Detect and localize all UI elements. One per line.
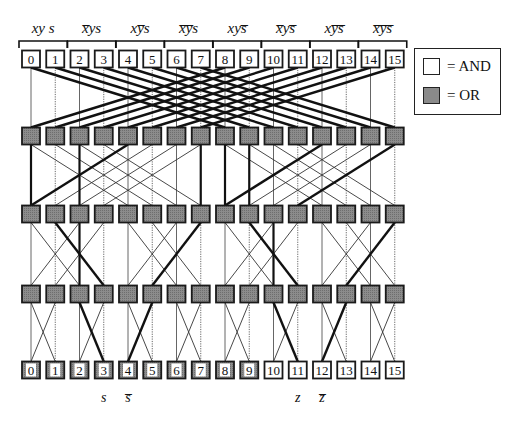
or-gate-node — [22, 206, 40, 223]
or-gate-node — [119, 286, 137, 303]
input-node-label: 5 — [149, 52, 156, 67]
output-node-label: 2 — [76, 363, 83, 378]
input-node-label: 0 — [28, 52, 35, 67]
or-gate-node — [119, 206, 137, 223]
or-gate-node — [95, 286, 113, 303]
group-label: xy̅s̅ — [324, 20, 346, 36]
or-gate-node — [289, 286, 307, 303]
input-node-label: 13 — [340, 52, 353, 67]
or-gate-node — [337, 128, 355, 145]
legend: = AND = OR — [414, 48, 501, 115]
output-node-label: 12 — [316, 363, 329, 378]
or-gate-node — [240, 206, 258, 223]
or-gate-swatch-icon — [423, 87, 440, 104]
or-gate-node — [22, 286, 40, 303]
legend-label-and: = AND — [447, 58, 491, 75]
or-gate-node — [265, 286, 283, 303]
legend-item-and: = AND — [423, 58, 491, 75]
or-gate-node — [289, 128, 307, 145]
output-node-label: 1 — [52, 363, 59, 378]
or-gate-node — [240, 286, 258, 303]
or-gate-node — [46, 206, 64, 223]
or-gate-node — [289, 206, 307, 223]
output-node-label: 11 — [291, 363, 304, 378]
or-gate-node — [71, 286, 89, 303]
output-signal-label: s — [101, 390, 107, 405]
input-node-label: 15 — [388, 52, 401, 67]
butterfly-cross-connections — [31, 145, 395, 362]
or-gate-node — [119, 128, 137, 145]
or-gate-node — [95, 206, 113, 223]
input-node-label: 3 — [101, 52, 108, 67]
group-labels: xy sx̅ysxy̅sx̅y̅sxys̅x̅ys̅xy̅s̅x̅y̅s̅ — [31, 20, 394, 36]
or-gate-node — [192, 206, 210, 223]
or-gate-node — [216, 128, 234, 145]
output-node-label: 8 — [222, 363, 229, 378]
input-node-label: 6 — [173, 52, 180, 67]
output-node-label: 6 — [173, 363, 180, 378]
output-signal-label: z — [294, 390, 301, 405]
or-gate-node — [168, 206, 186, 223]
or-gate-node — [192, 286, 210, 303]
or-gate-node — [46, 128, 64, 145]
group-label: xys̅ — [227, 20, 249, 36]
or-gate-node — [313, 206, 331, 223]
or-gate-node — [386, 286, 404, 303]
and-gate-swatch-icon — [423, 58, 440, 75]
or-gate-node — [362, 128, 380, 145]
input-node-label: 10 — [267, 52, 280, 67]
or-gate-node — [386, 206, 404, 223]
output-node-label: 5 — [149, 363, 156, 378]
or-gate-node — [143, 286, 161, 303]
or-gate-node — [386, 128, 404, 145]
group-label: x̅ys — [81, 20, 101, 36]
or-gate-node — [216, 286, 234, 303]
input-node-label: 8 — [222, 52, 229, 67]
group-brackets — [19, 41, 407, 48]
or-gate-node — [265, 128, 283, 145]
or-gate-node — [337, 286, 355, 303]
or-gate-node — [22, 128, 40, 145]
output-node-label: 3 — [101, 363, 108, 378]
input-node-label: 11 — [291, 52, 304, 67]
input-node-label: 12 — [316, 52, 329, 67]
input-node-label: 14 — [364, 52, 378, 67]
output-node-label: 15 — [388, 363, 401, 378]
output-node-label: 4 — [125, 363, 132, 378]
output-node-label: 7 — [198, 363, 205, 378]
output-labels: ss̅zz̅ — [101, 390, 327, 405]
or-gate-node — [240, 128, 258, 145]
or-gate-node — [143, 128, 161, 145]
or-gate-node — [265, 206, 283, 223]
output-node-label: 9 — [246, 363, 253, 378]
or-gate-node — [216, 206, 234, 223]
or-gate-node — [71, 128, 89, 145]
or-gate-node — [71, 206, 89, 223]
input-node-label: 9 — [246, 52, 253, 67]
or-gate-node — [168, 128, 186, 145]
or-gate-node — [337, 206, 355, 223]
or-gate-node — [313, 128, 331, 145]
or-gate-node — [168, 286, 186, 303]
legend-label-or: = OR — [447, 87, 480, 104]
group-label: xy̅s — [130, 20, 150, 36]
or-gate-node — [95, 128, 113, 145]
or-gate-node — [192, 128, 210, 145]
or-gate-node — [313, 286, 331, 303]
output-signal-label: s̅ — [125, 390, 133, 405]
or-gate-node — [46, 286, 64, 303]
group-label: x̅ys̅ — [275, 20, 297, 36]
legend-item-or: = OR — [423, 87, 480, 104]
group-label: xy s — [31, 20, 55, 36]
group-label: x̅y̅s — [178, 20, 198, 36]
or-gate-node — [362, 286, 380, 303]
or-gate-node — [143, 206, 161, 223]
group-label: x̅y̅s̅ — [372, 20, 394, 36]
output-node-label: 10 — [267, 363, 280, 378]
input-node-label: 2 — [76, 52, 83, 67]
output-signal-label: z̅ — [318, 390, 326, 405]
output-node-label: 14 — [364, 363, 378, 378]
or-gate-node — [362, 206, 380, 223]
input-node-label: 7 — [198, 52, 205, 67]
input-node-label: 4 — [125, 52, 132, 67]
